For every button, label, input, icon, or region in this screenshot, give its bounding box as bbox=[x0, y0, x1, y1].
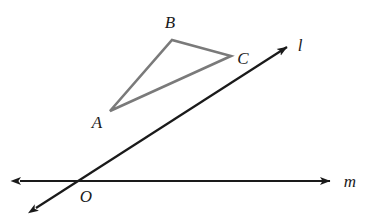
vertex-label-a: A bbox=[92, 114, 102, 131]
vertex-label-c: C bbox=[237, 50, 248, 67]
line-label-m: m bbox=[344, 173, 356, 190]
geometry-figure: A B C O l m bbox=[0, 0, 374, 224]
line-l bbox=[36, 47, 287, 208]
figure-canvas bbox=[0, 0, 374, 224]
line-label-l: l bbox=[298, 37, 303, 54]
point-label-o: O bbox=[80, 188, 92, 205]
triangle-abc bbox=[110, 40, 231, 111]
vertex-label-b: B bbox=[165, 14, 175, 31]
